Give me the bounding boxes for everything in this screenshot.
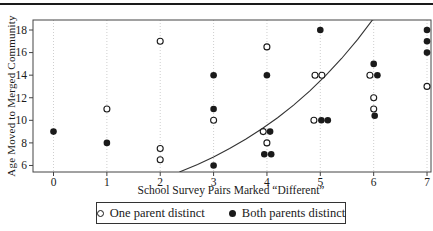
data-point [424,83,430,89]
x-tick-label: 7 [424,176,430,188]
data-point [260,129,266,135]
data-point [104,140,111,147]
data-point [374,72,381,79]
data-point [210,162,217,169]
data-point [157,157,163,163]
data-point [367,72,373,78]
data-point [210,106,217,113]
y-tick-label: 6 [21,159,27,171]
data-point [261,151,268,158]
data-point [311,117,317,123]
y-axis-label: Age Moved to Merged Community [5,15,17,176]
data-point [424,38,431,45]
y-tick-label: 10 [16,114,28,126]
figure: 01234567681012141618 Age Moved to Merged… [0,0,433,231]
data-point [371,95,377,101]
trend-curve [179,18,373,172]
x-tick-label: 1 [104,176,110,188]
data-point [325,117,332,124]
y-tick-label: 12 [16,92,28,104]
legend: One parent distinct Both parents distinc… [96,202,346,224]
x-axis-label: School Survey Pairs Marked “Different” [138,184,325,196]
data-point [371,113,378,120]
y-tick-label: 14 [16,69,28,81]
data-point [319,72,325,78]
legend-label-both-parents: Both parents distinct [242,206,345,221]
data-point [104,106,110,112]
y-tick-label: 16 [16,46,28,58]
data-point [371,106,377,112]
data-point [424,49,431,56]
scatter-plot: 01234567681012141618 [0,0,433,231]
data-point [318,117,325,124]
axis-ticks: 01234567681012141618 [16,24,431,188]
data-point [264,140,270,146]
data-point [210,72,217,79]
legend-entry-both-parents: Both parents distinct [229,206,345,221]
data-point [157,38,163,44]
open-circle-icon [97,210,104,217]
x-tick-label: 0 [51,176,57,188]
y-tick-label: 18 [16,24,28,36]
data-point [157,146,163,152]
data-point [312,72,318,78]
filled-circle-icon [229,210,236,217]
data-point [267,128,274,135]
x-tick-label: 6 [371,176,377,188]
data-point [317,27,324,34]
data-point [424,27,431,34]
data-point [268,151,275,158]
data-point [50,128,57,135]
legend-label-one-parent: One parent distinct [110,206,205,221]
data-point [370,61,377,68]
data-point [264,44,270,50]
legend-entry-one-parent: One parent distinct [97,206,205,221]
y-tick-label: 8 [21,137,27,149]
data-point [211,117,217,123]
data-point [264,72,271,79]
